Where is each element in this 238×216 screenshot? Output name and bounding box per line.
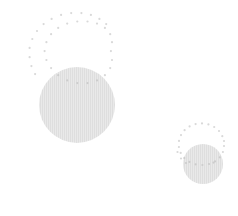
scatter-dot xyxy=(44,50,46,52)
scatter-dot xyxy=(96,23,98,25)
scatter-dot xyxy=(70,12,72,14)
scatter-dot xyxy=(98,18,100,20)
scatter-dot xyxy=(109,33,111,35)
scatter-dot xyxy=(207,123,209,125)
scatter-dot xyxy=(34,73,36,75)
scatter-dot xyxy=(176,151,178,153)
scatter-dot xyxy=(104,74,106,76)
scatter-dot xyxy=(57,27,59,29)
scatter-dot xyxy=(50,67,52,69)
scatter-plot-canvas xyxy=(0,0,238,216)
scatter-dot xyxy=(29,56,31,58)
scatter-dot xyxy=(221,135,223,137)
scatter-dot xyxy=(104,27,106,29)
scatter-dot xyxy=(109,67,111,69)
scatter-dot xyxy=(51,18,53,20)
scatter-dot xyxy=(213,126,215,128)
scatter-dot xyxy=(178,140,180,142)
scatter-dot xyxy=(29,47,31,49)
scatter-dot xyxy=(80,12,82,14)
scatter-dot xyxy=(30,65,32,67)
scatter-dot xyxy=(180,134,182,136)
scatter-dot xyxy=(76,82,78,84)
scatter-dot xyxy=(201,122,203,124)
scatter-dot xyxy=(57,74,59,76)
scatter-dot xyxy=(180,152,182,154)
scatter-dot xyxy=(66,23,68,25)
scatter-dot xyxy=(43,23,45,25)
scatter-dot xyxy=(110,50,112,52)
scatter-dot xyxy=(208,163,210,165)
scatter-dot xyxy=(222,151,224,153)
small-filled-disc xyxy=(183,144,223,184)
scatter-dot xyxy=(76,20,78,22)
scatter-dot xyxy=(178,146,180,148)
scatter-dot xyxy=(184,129,186,131)
scatter-dot xyxy=(111,41,113,43)
scatter-dot xyxy=(60,14,62,16)
scatter-dot xyxy=(90,14,92,16)
scatter-dot xyxy=(50,33,52,35)
scatter-dot xyxy=(219,156,221,158)
scatter-dot xyxy=(180,157,182,159)
scatter-dot xyxy=(31,38,33,40)
scatter-dot xyxy=(195,163,197,165)
figure-root xyxy=(0,0,238,216)
scatter-dot xyxy=(183,157,185,159)
scatter-dot xyxy=(36,30,38,32)
scatter-dot xyxy=(86,82,88,84)
scatter-dot xyxy=(66,79,68,81)
scatter-dot xyxy=(189,125,191,127)
scatter-dot xyxy=(201,164,203,166)
scatter-dot xyxy=(45,41,47,43)
scatter-dot xyxy=(105,23,107,25)
scatter-dot xyxy=(185,162,187,164)
scatter-dot xyxy=(195,123,197,125)
scatter-dot xyxy=(45,59,47,61)
scatter-dot xyxy=(96,79,98,81)
scatter-dot xyxy=(223,145,225,147)
scatter-dot xyxy=(86,20,88,22)
scatter-dot xyxy=(223,140,225,142)
scatter-dot xyxy=(111,59,113,61)
scatter-dot xyxy=(212,162,214,164)
scatter-dot xyxy=(218,130,220,132)
scatter-dot xyxy=(188,161,190,163)
large-filled-disc xyxy=(39,67,115,143)
